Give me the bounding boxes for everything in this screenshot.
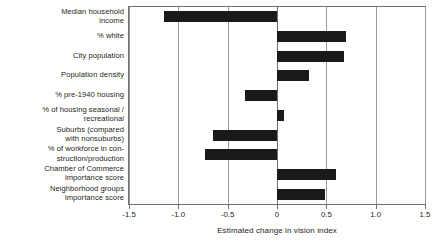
gridline xyxy=(129,7,130,204)
category-label-line: importance score xyxy=(0,193,124,202)
bar xyxy=(205,149,277,160)
x-axis: Estimated change in vision index -1.5-1.… xyxy=(128,205,426,249)
category-label: City population xyxy=(0,51,124,60)
category-label-line: with nonsuburbs) xyxy=(0,134,124,143)
category-label-line: struction/production xyxy=(0,154,124,163)
category-label-line: City population xyxy=(0,51,124,60)
category-label-line: recreational xyxy=(0,114,124,123)
category-label-line: Suburbs (compared xyxy=(0,125,124,134)
x-tick-mark xyxy=(277,205,278,209)
category-label: Suburbs (comparedwith nonsuburbs) xyxy=(0,125,124,144)
bar xyxy=(213,130,277,141)
bar xyxy=(277,31,346,42)
x-tick-mark xyxy=(129,205,130,209)
category-label-line: Chamber of Commerce xyxy=(0,164,124,173)
x-tick-label: 1.0 xyxy=(356,210,396,219)
category-label: % pre-1940 housing xyxy=(0,90,124,99)
gridline xyxy=(376,7,377,204)
category-label-line: Neighborhood groups xyxy=(0,184,124,193)
bar xyxy=(245,90,277,101)
x-tick-label: 1.5 xyxy=(405,210,434,219)
x-tick-label: -1.5 xyxy=(109,210,149,219)
bar xyxy=(277,51,344,62)
category-label-line: Median household xyxy=(0,7,124,16)
bar xyxy=(277,110,284,121)
category-label-line: % white xyxy=(0,31,124,40)
category-label-line: Population density xyxy=(0,70,124,79)
gridline xyxy=(178,7,179,204)
category-label: % white xyxy=(0,31,124,40)
bar xyxy=(277,169,336,180)
category-label-line: % of housing seasonal / xyxy=(0,105,124,114)
x-tick-mark xyxy=(425,205,426,209)
category-axis-labels: Median householdincome% whiteCity popula… xyxy=(0,0,128,205)
x-tick-mark xyxy=(326,205,327,209)
x-tick-label: -1.0 xyxy=(158,210,198,219)
x-axis-title: Estimated change in vision index xyxy=(128,226,426,235)
category-label-line: % of workforce in con- xyxy=(0,144,124,153)
category-label: Population density xyxy=(0,70,124,79)
x-tick-mark xyxy=(376,205,377,209)
category-label: Chamber of Commerceimportance score xyxy=(0,164,124,183)
category-label-line: income xyxy=(0,16,124,25)
x-tick-label: 0.5 xyxy=(306,210,346,219)
bar xyxy=(277,189,325,200)
horizontal-bar-chart: Median householdincome% whiteCity popula… xyxy=(0,0,434,249)
category-label-line: importance score xyxy=(0,173,124,182)
category-label-line: % pre-1940 housing xyxy=(0,90,124,99)
x-tick-label: 0 xyxy=(257,210,297,219)
x-tick-mark xyxy=(228,205,229,209)
category-label: % of housing seasonal /recreational xyxy=(0,105,124,124)
gridline xyxy=(425,7,426,204)
gridline xyxy=(228,7,229,204)
category-label: Neighborhood groupsimportance score xyxy=(0,184,124,203)
x-tick-label: -0.5 xyxy=(208,210,248,219)
bar xyxy=(164,11,277,22)
bar xyxy=(277,70,309,81)
x-tick-mark xyxy=(178,205,179,209)
category-label: Median householdincome xyxy=(0,7,124,26)
category-label: % of workforce in con-struction/producti… xyxy=(0,144,124,163)
plot-area xyxy=(128,6,426,205)
